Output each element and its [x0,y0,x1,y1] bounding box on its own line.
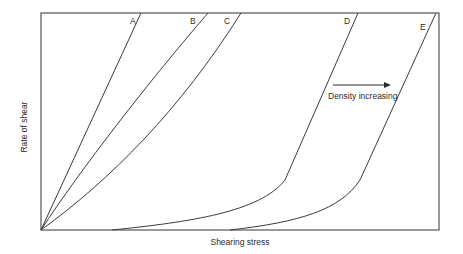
rheology-diagram: A B C D E Density increasing Shearing st… [0,0,463,254]
y-axis-label: Rate of shear [19,101,29,152]
curve-label-d: D [344,16,350,26]
plot-frame [41,13,439,230]
curve-label-e: E [420,22,426,32]
curve-label-c: C [224,16,230,26]
curve-d [112,13,358,230]
x-axis-label: Shearing stress [210,237,269,247]
curve-a [41,13,141,230]
curve-label-b: B [190,16,196,26]
curve-e [230,13,436,230]
annotation-density: Density increasing [328,91,398,101]
curve-b [41,13,208,230]
arrow-head-icon [384,82,391,88]
curve-label-a: A [130,16,136,26]
curve-c [41,13,241,230]
